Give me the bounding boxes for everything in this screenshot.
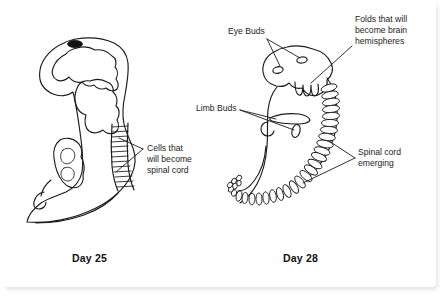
caption-day-25: Day 25 [72, 252, 107, 264]
leader-cells-spinal-upper [119, 138, 143, 149]
day25-body-outline [27, 38, 135, 222]
day25-inner-detail [61, 148, 75, 164]
day28-vertebral-column [235, 82, 340, 205]
callout-cells-spinal-cord: Cells that will become spinal cord [146, 143, 194, 175]
day25-optic-vesicle-icon [68, 40, 83, 47]
day28-body-front [240, 87, 277, 203]
callout-labels: Cells that will become spinal cord Eye B… [146, 14, 409, 175]
day25-inner-detail-2 [61, 167, 74, 181]
panel-captions: Day 25 Day 28 [72, 252, 318, 264]
callout-eye-buds: Eye Buds [228, 26, 265, 36]
caption-day-28: Day 28 [283, 252, 318, 264]
day-25-embryo [27, 38, 135, 223]
leader-cells-spinal-lower [116, 149, 143, 172]
leader-spinal-emerging-upper [329, 141, 355, 158]
leader-limb-bud-upper [240, 110, 276, 119]
embryo-diagram-figure: Cells that will become spinal cord Eye B… [0, 0, 447, 298]
callout-brain-hemispheres: Folds that will become brain hemispheres [355, 14, 409, 46]
day25-head-fold [52, 47, 118, 91]
leader-brain-folds [311, 46, 352, 83]
callout-spinal-cord-emerging: Spinal cord emerging [358, 147, 403, 168]
day25-neck-line [41, 180, 51, 196]
callout-limb-buds: Limb Buds [196, 103, 237, 113]
day28-ventral-curve [238, 146, 266, 191]
day28-lower-limb-bud [291, 124, 302, 139]
diagram-canvas: Cells that will become spinal cord Eye B… [0, 0, 447, 298]
day25-tail [36, 193, 118, 223]
day28-eye-bud-left-icon [272, 66, 284, 74]
